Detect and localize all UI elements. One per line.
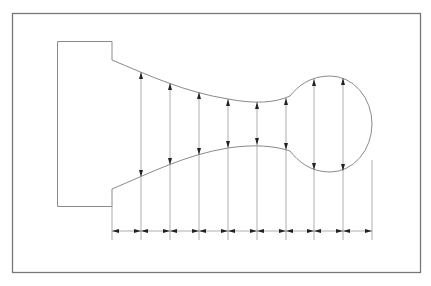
arrowhead-icon [336,229,343,233]
technical-drawing [0,0,431,286]
arrowhead-icon [226,99,230,106]
arrowhead-icon [255,138,259,145]
arrowhead-icon [307,229,314,233]
arrowhead-icon [170,229,177,233]
arrowhead-icon [286,229,293,233]
dimensions [112,72,372,240]
arrowhead-icon [314,229,321,233]
arrowhead-icon [312,79,316,86]
arrowhead-icon [163,229,170,233]
arrowhead-icon [250,229,257,233]
profile-bulb [330,76,372,172]
arrowhead-icon [257,229,264,233]
arrowhead-icon [112,229,119,233]
part-profile [58,42,373,207]
profile-upper-contour [112,60,330,102]
arrowhead-icon [134,229,141,233]
arrowhead-icon [192,229,199,233]
arrowhead-icon [226,141,230,148]
arrowhead-icon [221,229,228,233]
profile-block [58,42,113,207]
arrowhead-icon [365,229,372,233]
profile-lower-contour [112,146,330,189]
arrowhead-icon [199,229,206,233]
arrowhead-icon [284,98,288,105]
arrowhead-icon [228,229,235,233]
arrowhead-icon [279,229,286,233]
drawing-frame [13,14,421,273]
arrowhead-icon [141,229,148,233]
arrowhead-icon [255,102,259,109]
arrowhead-icon [343,229,350,233]
